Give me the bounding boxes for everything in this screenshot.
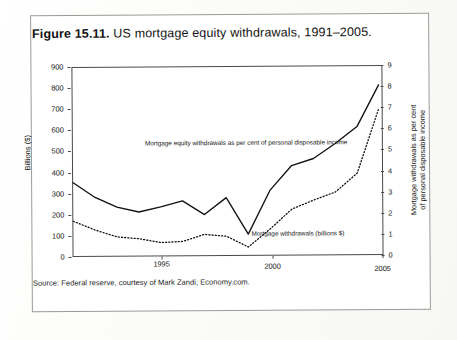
left-tickmark (68, 236, 71, 237)
series-label-percent: Mortgage equity withdrawals as per cent … (145, 138, 348, 146)
left-axis-title: Billions ($) (23, 135, 32, 171)
right-tick-8: 8 (387, 81, 407, 90)
left-tick-300: 300 (38, 189, 64, 198)
figure-number: Figure 15.11. (32, 27, 110, 41)
right-tick-3: 3 (388, 187, 408, 196)
plot-area: Mortgage equity withdrawals as per cent … (71, 65, 383, 257)
left-tickmark (67, 67, 70, 68)
left-tickmark (68, 88, 71, 89)
left-tickmark (68, 130, 71, 131)
left-tick-700: 700 (38, 105, 64, 114)
right-tick-1: 1 (388, 229, 408, 238)
x-tick-2000: 2000 (255, 262, 291, 271)
x-tick-1995: 1995 (144, 259, 180, 268)
left-tick-100: 100 (38, 231, 64, 240)
left-tickmark (68, 151, 71, 152)
right-tick-5: 5 (388, 145, 408, 154)
left-tick-0: 0 (39, 253, 65, 262)
left-tick-600: 600 (38, 126, 64, 135)
series-label-billions: Mortgage withdrawals (billions $) (251, 229, 344, 237)
right-tick-7: 7 (388, 103, 408, 112)
right-tick-9: 9 (387, 60, 407, 69)
figure-caption: US mortgage equity withdrawals, 1991–200… (113, 25, 372, 41)
right-axis-title: Mortgage withdrawals as per cent of pers… (409, 100, 428, 220)
right-tick-6: 6 (388, 124, 408, 133)
left-tick-200: 200 (38, 210, 64, 219)
left-tickmark (68, 194, 71, 195)
x-tickmark (273, 256, 274, 259)
series-lines (72, 66, 382, 256)
left-tick-800: 800 (38, 84, 64, 93)
left-tickmark (68, 215, 71, 216)
left-tick-400: 400 (38, 168, 64, 177)
scanned-page: Figure 15.11. US mortgage equity withdra… (0, 0, 457, 340)
figure-title: Figure 15.11. US mortgage equity withdra… (32, 25, 372, 41)
left-tickmark (69, 257, 72, 258)
series-line-percent (73, 85, 380, 235)
left-tickmark (68, 172, 71, 173)
left-tickmark (68, 109, 71, 110)
x-tick-2005: 2005 (365, 264, 401, 273)
x-tickmark (383, 255, 384, 258)
chart: Billions ($) Mortgage withdrawals as per… (25, 51, 431, 278)
right-axis-title-line-2: of personal disposable income (418, 100, 428, 220)
left-tick-900: 900 (37, 63, 63, 72)
series-line-billions (73, 109, 380, 248)
source-note: Source: Federal reserve, courtesy of Mar… (33, 277, 250, 287)
left-tick-500: 500 (38, 147, 64, 156)
right-tick-2: 2 (388, 208, 408, 217)
right-tick-0: 0 (389, 250, 409, 259)
right-tick-4: 4 (388, 166, 408, 175)
